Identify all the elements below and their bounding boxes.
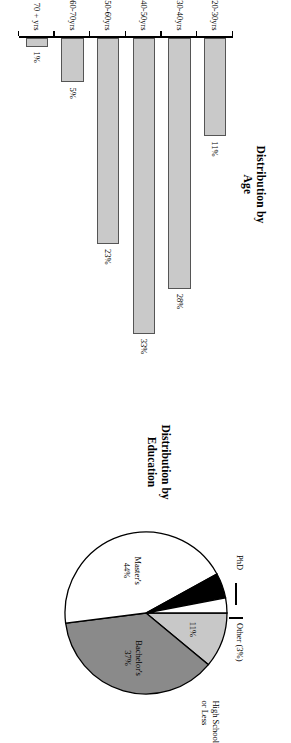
pie-label-bachelors: Bachelor's 37%	[122, 640, 144, 676]
bar-50-60yrs[interactable]	[97, 38, 119, 244]
bar-value-label: 28%	[175, 294, 185, 310]
axis-tick	[89, 31, 90, 36]
bar-chart-title-line2: Age	[242, 175, 254, 195]
education-pie-chart-panel: Distribution by Education 11% Bachelor's…	[0, 380, 291, 737]
bar-30-40yrs[interactable]	[168, 38, 190, 289]
bar-row: 23%50-60yrs	[97, 38, 119, 352]
bar-chart-title-line1: Distribution by	[255, 145, 267, 223]
bar-category-label: 20-30yrs	[210, 0, 220, 30]
bar-60-70yrs[interactable]	[61, 38, 83, 83]
bar-value-label: 11%	[210, 141, 220, 156]
bar-series: 11%20-30yrs28%30-40yrs33%40-50yrs23%50-6…	[19, 38, 233, 352]
bar-value-label: 5%	[68, 87, 78, 98]
age-bar-chart-panel: Distribution by Age 11%20-30yrs28%30-40y…	[0, 0, 291, 369]
bar-40-50yrs[interactable]	[133, 38, 155, 334]
pie-label-bachelors-value: 37%	[123, 650, 133, 666]
pie-chart-title: Distribution by Education	[145, 402, 173, 522]
bar-value-label: 33%	[139, 339, 149, 355]
pie-leader-line-phd	[235, 583, 237, 605]
bar-plot-area: 11%20-30yrs28%30-40yrs33%40-50yrs23%50-6…	[19, 36, 233, 352]
bar-category-label: 40-50yrs	[139, 0, 149, 30]
axis-tick	[232, 31, 233, 36]
bar-category-label: 50-60yrs	[103, 0, 113, 30]
bar-chart-title: Distribution by Age	[241, 0, 267, 369]
bar-70-yrs[interactable]	[26, 38, 48, 47]
pie-label-bachelors-name: Bachelor's	[134, 640, 144, 676]
pie-leader-line-other	[229, 617, 243, 619]
axis-tick	[125, 31, 126, 36]
pie-chart-title-line1: Distribution by	[160, 424, 172, 499]
bar-row: 1%70 + yrs	[26, 38, 48, 352]
bar-category-label: 30-40yrs	[175, 0, 185, 30]
pie-callout-high-school: High School or Less	[200, 700, 221, 743]
pie-label-masters: Master's 44%	[121, 556, 143, 584]
pie-svg	[63, 530, 229, 696]
pie-callout-high-school-line2: or Less	[200, 700, 210, 725]
bar-row: 11%20-30yrs	[204, 38, 226, 352]
axis-tick	[196, 31, 197, 36]
pie-label-phd-value: 5%	[188, 590, 199, 601]
pie-callout-high-school-line1: High School	[211, 700, 221, 743]
bar-row: 33%40-50yrs	[133, 38, 155, 352]
bar-value-label: 23%	[103, 249, 113, 265]
axis-tick	[18, 31, 19, 36]
pie-label-high-school-value: 11%	[186, 622, 197, 637]
pie-graphic-wrapper	[63, 530, 229, 696]
age-bar-chart: Distribution by Age 11%20-30yrs28%30-40y…	[0, 0, 291, 369]
bar-20-30yrs[interactable]	[204, 38, 226, 137]
pie-label-masters-value: 44%	[122, 563, 132, 579]
axis-tick	[160, 31, 161, 36]
bar-value-label: 1%	[32, 52, 42, 63]
bar-row: 28%30-40yrs	[168, 38, 190, 352]
bar-category-label: 70 + yrs	[32, 3, 42, 31]
pie-label-masters-name: Master's	[133, 556, 143, 584]
pie-callout-phd: PhD	[235, 555, 246, 570]
education-pie-chart: Distribution by Education 11% Bachelor's…	[0, 380, 291, 737]
bar-category-label: 60-70yrs	[68, 0, 78, 30]
axis-tick	[53, 31, 54, 36]
pie-callout-other: Other (3%)	[235, 623, 246, 661]
pie-chart-title-line2: Education	[146, 437, 158, 488]
bar-row: 5%60-70yrs	[61, 38, 83, 352]
